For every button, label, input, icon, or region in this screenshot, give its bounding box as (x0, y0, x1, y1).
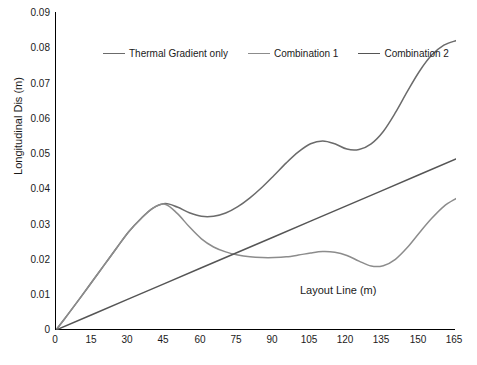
x-tick-label: 105 (289, 334, 329, 345)
x-tick-label: 0 (35, 334, 75, 345)
y-tick-label: 0.03 (8, 219, 50, 230)
plot-area (55, 12, 455, 330)
y-tick-label: 0.01 (8, 289, 50, 300)
x-tick-label: 30 (107, 334, 147, 345)
chart-plot-svg (56, 12, 456, 330)
y-tick-label: 0.02 (8, 254, 50, 265)
series-line-3 (56, 159, 456, 330)
legend-label: Thermal Gradient only (129, 48, 228, 59)
x-tick-label: 60 (180, 334, 220, 345)
legend-swatch-icon (103, 53, 125, 54)
x-tick-label: 15 (71, 334, 111, 345)
x-tick-label: 165 (434, 334, 474, 345)
x-tick-label: 150 (398, 334, 438, 345)
series-line-2 (56, 199, 456, 330)
legend-label: Combination 2 (384, 48, 448, 59)
x-tick-label: 45 (143, 334, 183, 345)
legend-item-combination-2: Combination 2 (358, 48, 448, 59)
legend-item-thermal-gradient-only: Thermal Gradient only (103, 48, 228, 59)
x-axis-title: Layout Line (m) (300, 284, 376, 296)
legend-swatch-icon (248, 53, 270, 54)
chart-container: 0 0.01 0.02 0.03 0.04 0.05 0.06 0.07 0.0… (0, 0, 477, 365)
x-tick-label: 135 (361, 334, 401, 345)
x-tick-label: 75 (216, 334, 256, 345)
y-tick-label: 0.09 (8, 7, 50, 18)
legend-item-combination-1: Combination 1 (248, 48, 338, 59)
y-axis-title: Longitudinal Dis (m) (12, 36, 24, 216)
legend-label: Combination 1 (274, 48, 338, 59)
legend-swatch-icon (358, 53, 380, 54)
x-tick-label: 90 (252, 334, 292, 345)
x-tick-label: 120 (325, 334, 365, 345)
chart-legend: Thermal Gradient only Combination 1 Comb… (103, 48, 463, 59)
